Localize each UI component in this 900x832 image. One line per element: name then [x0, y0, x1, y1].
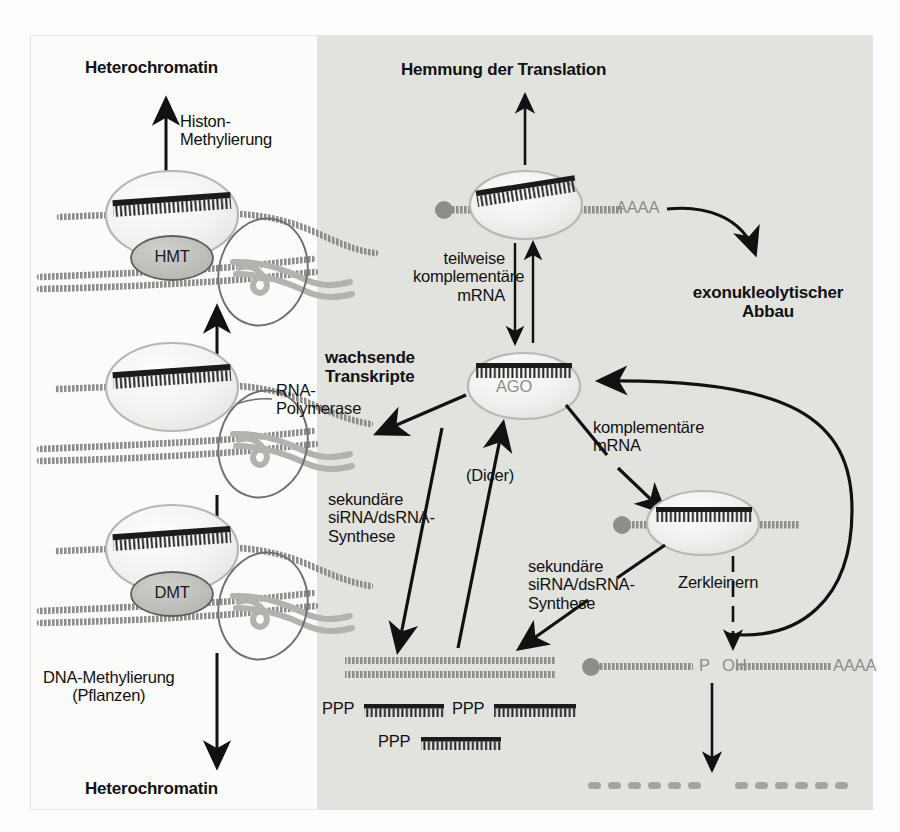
label-hmt: HMT: [146, 247, 198, 265]
heading-heterochromatin-bottom: Heterochromatin: [85, 779, 218, 798]
label-growing-transcripts: wachsende Transkripte: [325, 348, 415, 386]
label-dmt: DMT: [146, 583, 198, 601]
label-cleaved-3prime-p: OH: [722, 656, 746, 674]
label-partial-complementary-mrna: teilweise komplementäre mRNA: [413, 249, 505, 304]
heading-translation-inhibition: Hemmung der Translation: [401, 60, 606, 79]
label-slicing: Zerkleinern: [678, 573, 758, 591]
rnai-pathway-figure: Heterochromatin Histon- Methylierung HMT…: [0, 0, 900, 832]
label-rna-polymerase: RNA- Polymerase: [276, 381, 361, 418]
label-poly-a-tail-top: AAAA: [616, 198, 659, 216]
label-cleaved-5prime-oh: P: [699, 656, 710, 674]
label-poly-a-tail-cleaved: AAAA: [833, 656, 876, 674]
label-dna-methylation: DNA-Methylierung (Pflanzen): [43, 668, 175, 705]
label-secondary-sirna-synthesis-right: sekundäre siRNA/dsRNA- Synthese: [528, 557, 635, 612]
label-ppp-2: PPP: [452, 699, 484, 717]
label-exonucleolytic-decay: exonukleolytischer Abbau: [657, 283, 879, 321]
label-ppp-3: PPP: [378, 732, 410, 750]
label-histone-methylation: Histon- Methylierung: [180, 112, 272, 149]
label-ago: AGO: [496, 377, 532, 395]
label-complementary-mrna: komplementäre mRNA: [593, 418, 704, 455]
label-dicer: (Dicer): [466, 466, 514, 484]
heading-heterochromatin-top: Heterochromatin: [85, 58, 218, 77]
label-secondary-sirna-synthesis-left: sekundäre siRNA/dsRNA- Synthese: [328, 490, 435, 545]
label-ppp-1: PPP: [322, 699, 354, 717]
